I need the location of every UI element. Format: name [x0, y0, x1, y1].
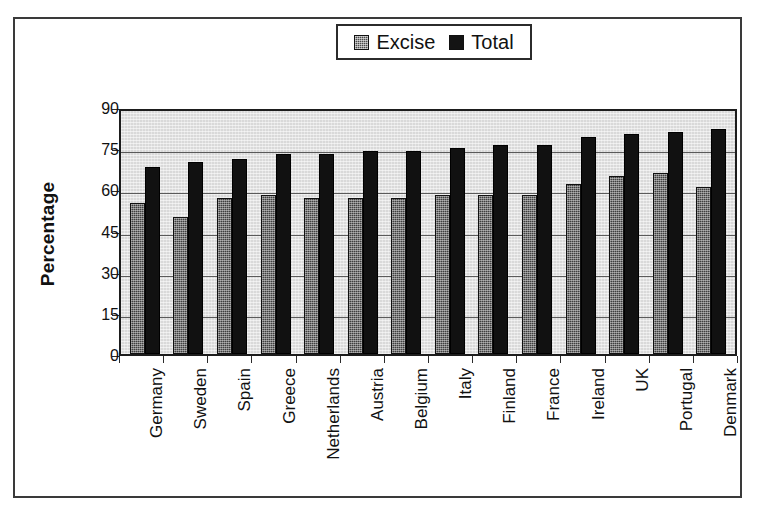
x-axis-tick [605, 356, 606, 363]
x-axis-tick [296, 356, 297, 363]
x-axis-tick [340, 356, 341, 363]
legend-label-total: Total [471, 32, 513, 52]
x-axis-tick [119, 356, 120, 363]
bar-series-container [121, 111, 735, 354]
bar-total-uk[interactable] [624, 134, 639, 354]
bar-total-spain[interactable] [232, 159, 247, 354]
bar-total-portugal[interactable] [668, 132, 683, 354]
bar-excise-italy[interactable] [435, 195, 450, 354]
x-axis-tick-label: Netherlands [325, 368, 342, 460]
bar-excise-austria[interactable] [348, 198, 363, 354]
y-axis-tick-label: 30 [35, 266, 119, 282]
bar-total-italy[interactable] [450, 148, 465, 354]
legend-entry-total: Total [449, 32, 513, 52]
bar-group [123, 111, 167, 354]
x-axis-tick-label: Spain [236, 368, 253, 411]
bar-excise-belgium[interactable] [391, 198, 406, 354]
y-axis-tick-label: 15 [35, 307, 119, 323]
bar-group [254, 111, 298, 354]
bar-total-france[interactable] [537, 145, 552, 354]
x-axis-tick-label: France [545, 368, 562, 421]
bar-group [210, 111, 254, 354]
x-axis-tick [472, 356, 473, 363]
bar-total-sweden[interactable] [188, 162, 203, 354]
x-axis-tick [428, 356, 429, 363]
x-axis-tick [207, 356, 208, 363]
x-axis-tick [560, 356, 561, 363]
bar-total-germany[interactable] [145, 167, 160, 354]
bar-total-denmark[interactable] [711, 129, 726, 354]
x-axis-tick-label: Greece [281, 368, 298, 424]
bar-total-austria[interactable] [363, 151, 378, 354]
bar-group [602, 111, 646, 354]
bar-excise-germany[interactable] [130, 203, 145, 354]
x-axis-tick [693, 356, 694, 363]
bar-total-ireland[interactable] [581, 137, 596, 354]
bar-group [341, 111, 385, 354]
y-axis: 9075604530150 [15, 19, 119, 507]
bar-group [384, 111, 428, 354]
chart-legend: Excise Total [336, 24, 532, 60]
x-axis-tick [649, 356, 650, 363]
x-axis-tick [163, 356, 164, 363]
bar-excise-portugal[interactable] [653, 173, 668, 354]
y-axis-tick-label: 60 [35, 183, 119, 199]
y-axis-tick-label: 45 [35, 225, 119, 241]
bar-excise-ireland[interactable] [566, 184, 581, 354]
excise-swatch-icon [354, 35, 369, 50]
legend-label-excise: Excise [376, 32, 435, 52]
bar-group [428, 111, 472, 354]
chart-figure-frame: Excise Total Percentage 9075604530150 Ge… [13, 17, 742, 498]
x-axis: GermanySwedenSpainGreeceNetherlandsAustr… [119, 356, 737, 507]
x-axis-tick-label: Germany [148, 368, 165, 438]
total-swatch-icon [449, 35, 464, 50]
bar-excise-greece[interactable] [261, 195, 276, 354]
x-axis-tick [516, 356, 517, 363]
x-axis-tick-label: Belgium [413, 368, 430, 429]
legend-entry-excise: Excise [354, 32, 435, 52]
bar-total-belgium[interactable] [406, 151, 421, 354]
x-axis-tick [251, 356, 252, 363]
bar-group [646, 111, 690, 354]
bar-group [690, 111, 734, 354]
bar-group [167, 111, 211, 354]
x-axis-tick-label: Italy [457, 368, 474, 399]
x-axis-tick-label: Denmark [722, 368, 739, 437]
bar-excise-spain[interactable] [217, 198, 232, 354]
y-axis-tick-label: 0 [35, 348, 119, 364]
x-axis-tick-label: Sweden [192, 368, 209, 429]
bar-total-finland[interactable] [493, 145, 508, 354]
bar-excise-france[interactable] [522, 195, 537, 354]
bar-excise-uk[interactable] [609, 176, 624, 354]
bar-group [559, 111, 603, 354]
bar-excise-netherlands[interactable] [304, 198, 319, 354]
x-axis-tick-label: Austria [369, 368, 386, 421]
x-axis-tick [737, 356, 738, 363]
x-axis-tick-label: Ireland [590, 368, 607, 420]
x-axis-tick-label: Finland [501, 368, 518, 424]
y-axis-tick-label: 75 [35, 142, 119, 158]
bar-total-greece[interactable] [276, 154, 291, 354]
y-axis-tick-label: 90 [35, 101, 119, 117]
bar-group [515, 111, 559, 354]
bar-excise-finland[interactable] [478, 195, 493, 354]
bar-total-netherlands[interactable] [319, 154, 334, 354]
x-axis-tick-label: Portugal [678, 368, 695, 431]
bar-excise-sweden[interactable] [173, 217, 188, 354]
plot-area [119, 109, 737, 356]
bar-excise-denmark[interactable] [696, 187, 711, 354]
bar-group [472, 111, 516, 354]
x-axis-tick-label: UK [634, 368, 651, 392]
bar-group [297, 111, 341, 354]
x-axis-tick [384, 356, 385, 363]
